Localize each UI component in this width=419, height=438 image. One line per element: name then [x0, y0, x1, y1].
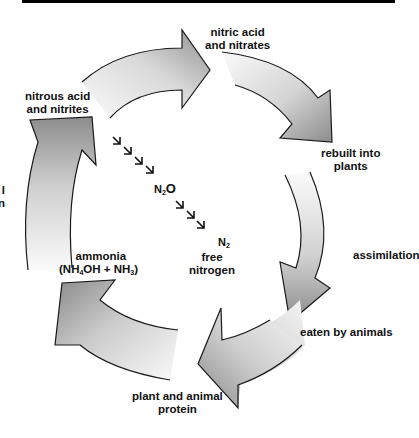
- label-assimilation: assimilation: [353, 249, 419, 262]
- small-arrow-icon: [176, 201, 183, 208]
- small-arrow-icon: [113, 137, 120, 144]
- small-arrow-icon: [146, 166, 153, 173]
- arrow-plants-to-animals: [280, 172, 330, 322]
- label-nitrous-acid: nitrous acid and nitrites: [25, 90, 90, 116]
- arrow-nitric-to-rebuilt: [222, 52, 332, 142]
- label-rebuilt-into-plants: rebuilt into plants: [321, 147, 380, 173]
- label-n2o: N2O: [154, 181, 176, 196]
- ammonia-formula: (NH4OH + NH3): [59, 263, 138, 276]
- label-free-nitrogen: free nitrogen: [189, 251, 235, 277]
- label-eaten-by-animals: eaten by animals: [300, 326, 393, 339]
- label-plant-animal-protein: plant and animal protein: [132, 390, 223, 416]
- arrow-nitrous-to-nitric: [82, 30, 210, 118]
- arrow-ammonia-to-nitrous: [26, 117, 96, 270]
- label-cut-off-left: l n: [0, 184, 5, 210]
- small-arrow-icon: [124, 147, 131, 154]
- label-n2: N2: [218, 236, 230, 249]
- small-arrow-icon: [197, 221, 204, 228]
- arrow-protein-to-ammonia: [55, 280, 178, 380]
- small-arrow-icon: [135, 157, 142, 164]
- small-arrow-icon: [187, 211, 194, 218]
- label-ammonia: ammonia (NH4OH + NH3): [59, 250, 138, 276]
- label-nitric-acid: nitric acid and nitrates: [205, 26, 270, 52]
